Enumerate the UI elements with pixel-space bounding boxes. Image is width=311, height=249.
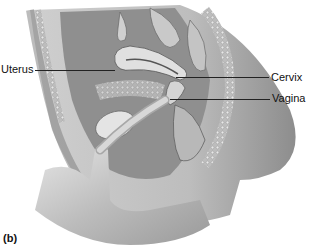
label-cervix: Cervix xyxy=(271,72,302,83)
label-uterus: Uterus xyxy=(1,64,33,75)
leader-line-uterus xyxy=(35,70,115,71)
anatomical-illustration: Uterus Cervix Vagina (b) xyxy=(0,0,311,249)
leader-line-vagina xyxy=(170,99,270,100)
pelvic-cross-section-drawing xyxy=(0,0,311,249)
label-vagina: Vagina xyxy=(272,93,305,104)
panel-label: (b) xyxy=(3,232,17,244)
leader-line-cervix xyxy=(176,77,269,78)
